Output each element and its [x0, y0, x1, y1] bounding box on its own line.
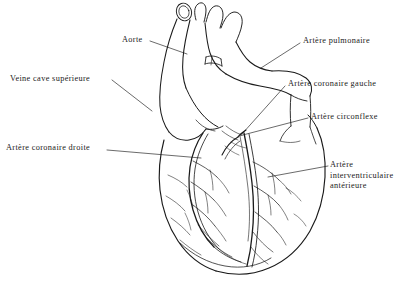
- right-ventricle-branches: [166, 161, 229, 255]
- right-coronary-artery-shadow: [194, 134, 219, 249]
- label-artere-coronaire-gauche: Artère coronaire gauche: [288, 79, 376, 90]
- label-artere-pulmonaire: Artère pulmonaire: [303, 36, 370, 47]
- left-atrial-appendage-crease: [280, 141, 300, 143]
- pulmonary-artery-lower-edge: [226, 74, 291, 95]
- branch-vessel-left: [195, 3, 206, 22]
- circumflex-artery-shadow: [225, 141, 240, 159]
- label-aorte: Aorte: [122, 35, 143, 46]
- label-artere-circonflexe: Artère circonflexe: [311, 112, 378, 123]
- ascending-aorta-left-edge: [205, 23, 226, 74]
- aortic-arch-branches: [195, 3, 243, 42]
- left-atrium-border: [310, 127, 316, 144]
- left-ventricle-branches: [251, 162, 306, 264]
- right-atrial-appendage-upper: [186, 88, 218, 127]
- heart-anatomy-figure: Aorte Veine cave supérieure Artère coron…: [0, 0, 407, 288]
- leader-lines: [107, 41, 328, 177]
- leader-artere-coronaire-gauche: [242, 86, 285, 134]
- leader-veine-cave-superieure: [112, 80, 152, 111]
- right-atrial-appendage-edge: [206, 126, 223, 129]
- right-coronary-artery: [189, 133, 214, 247]
- pulmonary-artery-right-tip: [291, 95, 307, 101]
- leader-artere-circonflexe: [239, 118, 308, 136]
- label-artere-interventriculaire-anterieure: Artère interventriculaire antérieure: [330, 160, 393, 192]
- pulmonary-trunk-right-edge: [290, 95, 291, 126]
- leader-artere-coronaire-droite: [107, 150, 201, 158]
- label-artere-coronaire-droite: Artère coronaire droite: [6, 143, 90, 154]
- aortic-arch-outer-edge: [236, 42, 272, 71]
- leader-artere-interventriculaire: [268, 166, 328, 177]
- superior-vena-cava-left-edge: [160, 19, 177, 132]
- left-atrial-appendage: [280, 126, 291, 141]
- branch-vessel-right: [221, 12, 242, 42]
- label-veine-cave-superieure: Veine cave supérieure: [10, 74, 90, 85]
- superior-vena-cava-opening-inner: [177, 4, 190, 19]
- branch-vessel-middle: [206, 6, 223, 28]
- leader-artere-pulmonaire: [261, 43, 300, 68]
- left-ventricle-outer-border: [216, 128, 325, 274]
- circumflex-artery: [222, 137, 238, 155]
- right-atrium-border: [169, 129, 206, 140]
